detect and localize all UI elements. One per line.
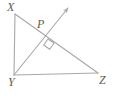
segment-yz	[14, 73, 98, 75]
vertex-label-x: X	[7, 1, 14, 13]
vertex-label-z: Z	[99, 74, 106, 86]
point-label-p: P	[37, 18, 44, 30]
geometry-diagram: X P Y Z	[0, 0, 115, 96]
vertex-label-y: Y	[8, 76, 15, 88]
geometry-canvas	[0, 0, 115, 96]
segment-xy	[14, 14, 15, 75]
